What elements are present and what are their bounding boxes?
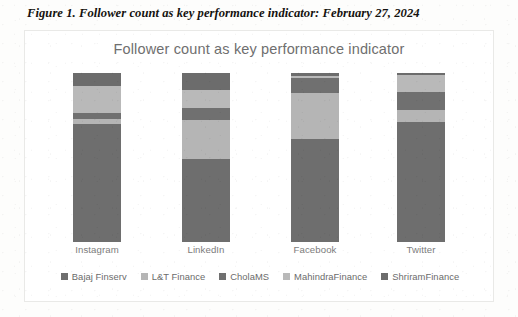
- bar-segment: [291, 139, 339, 242]
- chart-title: Follower count as key performance indica…: [25, 41, 493, 57]
- bar-column-facebook: [291, 73, 339, 242]
- legend-item[interactable]: CholaMS: [219, 271, 269, 282]
- legend-label: L&T Finance: [152, 271, 206, 282]
- legend-label: ShriramFinance: [392, 271, 459, 282]
- chart-legend: Bajaj FinservL&T FinanceCholaMSMahindraF…: [25, 271, 495, 282]
- bar-segment: [73, 73, 121, 86]
- bar-column-linkedin: [182, 73, 230, 242]
- chart-plot-area: [25, 73, 495, 242]
- bar-segment: [397, 110, 445, 122]
- x-axis-labels: InstagramLinkedInFacebookTwitter: [25, 244, 495, 260]
- bar-segment: [291, 78, 339, 93]
- x-axis-label-instagram: Instagram: [47, 244, 147, 255]
- legend-swatch-icon: [283, 273, 290, 280]
- bar-column-instagram: [73, 73, 121, 242]
- legend-label: MahindraFinance: [294, 271, 367, 282]
- bar-column-twitter: [397, 73, 445, 242]
- legend-swatch-icon: [61, 273, 68, 280]
- bar-segment: [73, 124, 121, 242]
- bar-segment: [182, 73, 230, 90]
- bar-segment: [397, 122, 445, 242]
- legend-item[interactable]: Bajaj Finserv: [61, 271, 127, 282]
- x-axis-label-twitter: Twitter: [371, 244, 471, 255]
- bar-segment: [73, 86, 121, 113]
- figure-caption: Figure 1. Follower count as key performa…: [27, 5, 497, 21]
- legend-swatch-icon: [381, 273, 388, 280]
- bar-segment: [182, 108, 230, 120]
- x-axis-label-facebook: Facebook: [265, 244, 365, 255]
- legend-swatch-icon: [141, 273, 148, 280]
- legend-item[interactable]: ShriramFinance: [381, 271, 459, 282]
- legend-swatch-icon: [219, 273, 226, 280]
- bar-segment: [182, 90, 230, 109]
- bar-segment: [182, 159, 230, 242]
- legend-label: CholaMS: [230, 271, 269, 282]
- bar-segment: [291, 93, 339, 139]
- legend-item[interactable]: MahindraFinance: [283, 271, 367, 282]
- x-axis-label-linkedin: LinkedIn: [156, 244, 256, 255]
- legend-label: Bajaj Finserv: [72, 271, 127, 282]
- bar-segment: [182, 120, 230, 159]
- legend-item[interactable]: L&T Finance: [141, 271, 206, 282]
- chart-card: Follower count as key performance indica…: [24, 30, 494, 302]
- bar-segment: [397, 75, 445, 92]
- document-page: Figure 1. Follower count as key performa…: [0, 0, 518, 317]
- bar-segment: [397, 92, 445, 111]
